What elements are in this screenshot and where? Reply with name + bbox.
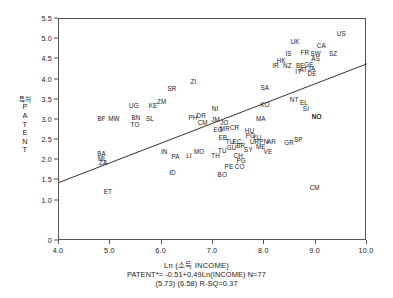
- y-axis-tick-label: 3.5: [41, 94, 52, 103]
- data-point-label: SY: [244, 145, 253, 152]
- data-point-label: CA: [317, 41, 326, 48]
- x-axis-tick-mark: [263, 240, 264, 244]
- data-point-label: ET: [104, 187, 112, 194]
- x-axis-tick-label: 7.0: [207, 246, 218, 255]
- data-point-label: ME: [256, 142, 266, 149]
- data-point-label: AS: [311, 54, 320, 61]
- data-point-label: BN: [132, 114, 141, 121]
- data-point-label: PE: [225, 162, 234, 169]
- x-axis-tick-mark: [212, 240, 213, 244]
- data-point-label: UG: [129, 101, 139, 108]
- x-axis-tick-label: 6.0: [155, 246, 166, 255]
- data-point-label: JM: [211, 116, 220, 123]
- data-point-label: BO: [218, 171, 227, 178]
- data-point-label: IS: [285, 49, 291, 56]
- data-point-label: CM: [198, 119, 208, 126]
- y-axis-tick-label: 4.0: [41, 74, 52, 83]
- regression-stats: (5.73) (6.58) R-SQ=0.37: [0, 279, 393, 288]
- data-point-label: GR: [284, 138, 294, 145]
- x-axis-tick-label: 10.0: [359, 246, 374, 255]
- x-axis-tick-label: 9.0: [309, 246, 320, 255]
- data-point-label: ID: [169, 169, 176, 176]
- y-axis-title-en: PATENT: [18, 103, 32, 155]
- y-axis-tick-label: 3.0: [41, 114, 52, 123]
- data-point-label: BF: [97, 114, 105, 121]
- data-point-label: ZI: [191, 77, 197, 84]
- data-point-label: EL: [300, 99, 308, 106]
- y-axis-tick-label: 5.0: [41, 34, 52, 43]
- y-axis-tick-label: 1.0: [41, 195, 52, 204]
- data-point-label: SP: [294, 136, 303, 143]
- data-point-label: KE: [149, 101, 158, 108]
- y-axis-tick-label: 4.5: [41, 54, 52, 63]
- data-point-label: AR: [267, 138, 276, 145]
- regression-caption: PATENT*= -0.51+0.49Ln(INCOME) N=77 (5.73…: [0, 270, 393, 289]
- x-axis-tick-mark: [109, 240, 110, 244]
- data-point-label: CO: [235, 163, 245, 170]
- data-point-label: SA: [261, 84, 270, 91]
- data-point-label: MA: [256, 115, 266, 122]
- data-point-label: NZ: [283, 62, 292, 69]
- data-point-label: SR: [167, 84, 176, 91]
- data-point-label: ZA: [99, 159, 107, 166]
- data-point-label: NT: [290, 95, 299, 102]
- data-point-label: CM: [310, 183, 320, 190]
- x-axis-tick-mark: [315, 240, 316, 244]
- data-point-label: CR: [230, 124, 239, 131]
- data-point-label: US: [337, 30, 346, 37]
- data-point-label: SL: [146, 115, 154, 122]
- data-point-label: KO: [260, 100, 269, 107]
- regression-equation: PATENT*= -0.51+0.49Ln(INCOME) N=77: [0, 270, 393, 279]
- data-point-label: DE: [308, 69, 317, 76]
- data-point-label: MO: [194, 148, 204, 155]
- x-axis: 4.05.06.07.08.09.010.0: [0, 240, 393, 256]
- scatter-chart: 01.01.52.02.53.03.54.04.55.05.5 특허 PATEN…: [0, 0, 393, 298]
- x-axis-title: Ln (소득 INCOME): [0, 259, 393, 270]
- x-axis-tick-label: 5.0: [104, 246, 115, 255]
- data-point-label: NI: [212, 105, 219, 112]
- data-point-label: ZM: [157, 97, 166, 104]
- x-axis-tick-mark: [58, 240, 59, 244]
- y-axis-tick-label: 5.5: [41, 14, 52, 23]
- data-point-label: MR: [220, 124, 230, 131]
- data-point-label: IN: [161, 148, 168, 155]
- y-axis-title: 특허 PATENT: [18, 96, 32, 155]
- y-axis-tick-label: 1.5: [41, 175, 52, 184]
- plot-area: ETBAMLZABFMWUGTOBNKESLZMSRZIIDINPALIMOPH…: [58, 18, 366, 240]
- data-point-label: TO: [131, 120, 140, 127]
- data-point-label: DR: [197, 111, 206, 118]
- y-axis-title-letter: T: [18, 146, 32, 155]
- y-axis-tick-label: 2.5: [41, 135, 52, 144]
- data-point-label: TH: [211, 151, 220, 158]
- y-axis-tick-label: 2.0: [41, 155, 52, 164]
- x-axis-tick-mark: [366, 240, 367, 244]
- data-point-label: LI: [186, 152, 191, 159]
- x-axis-tick-label: 4.0: [53, 246, 64, 255]
- data-point-label: UK: [291, 38, 300, 45]
- data-point-label: NO: [312, 112, 322, 119]
- x-axis-tick-label: 8.0: [258, 246, 269, 255]
- x-axis-tick-mark: [161, 240, 162, 244]
- data-point-label: PA: [171, 153, 179, 160]
- data-point-label: SZ: [329, 49, 337, 56]
- data-point-label: MW: [108, 114, 119, 121]
- data-point-label: GU: [227, 143, 237, 150]
- data-point-label: FR: [301, 49, 310, 56]
